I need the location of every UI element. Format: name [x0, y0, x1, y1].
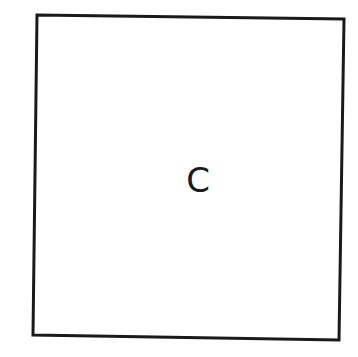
diagram-canvas: C: [0, 0, 358, 357]
box-label-c: C: [186, 160, 210, 200]
